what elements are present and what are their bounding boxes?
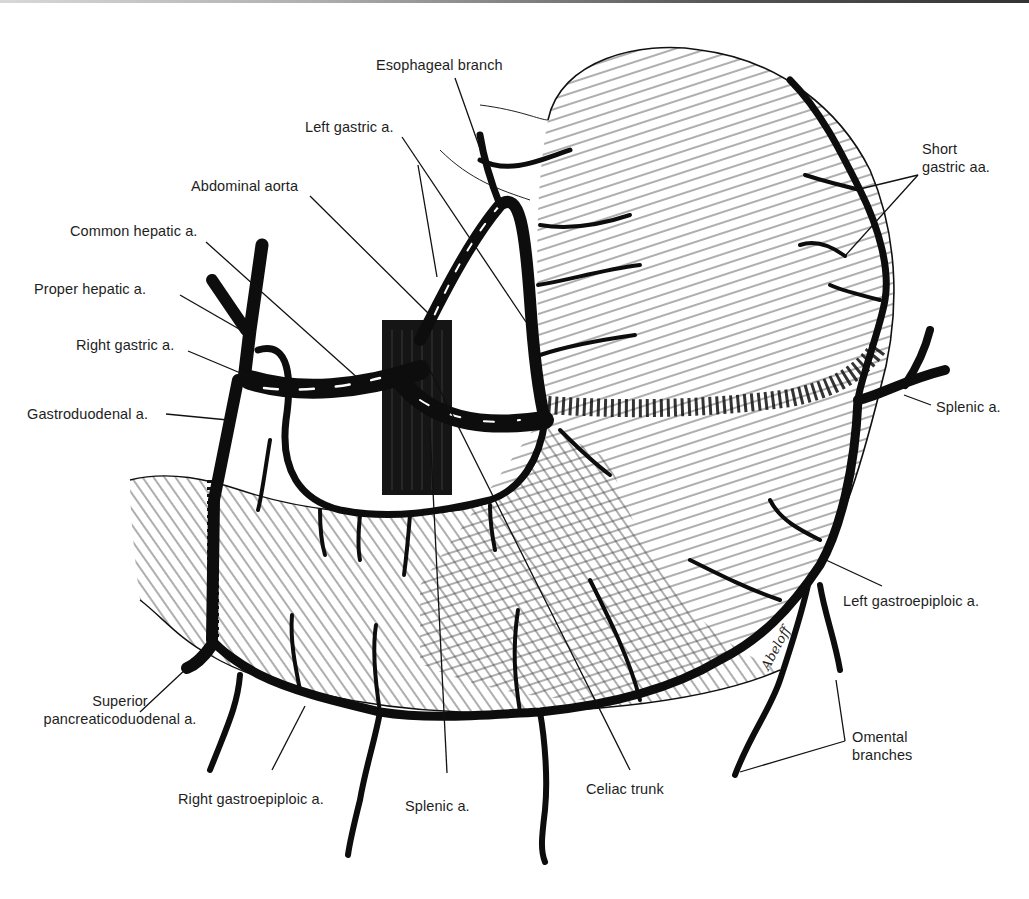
label-proper-hepatic: Proper hepatic a. bbox=[34, 280, 146, 298]
label-omental-line1: Omental bbox=[852, 728, 912, 746]
label-short-gastric: Short gastric aa. bbox=[922, 140, 990, 176]
label-omental-line2: branches bbox=[852, 746, 912, 764]
stomach-illustration bbox=[0, 0, 1029, 899]
label-left-gastric: Left gastric a. bbox=[305, 118, 394, 136]
splenic-right-leader bbox=[904, 395, 931, 405]
label-gastroduodenal: Gastroduodenal a. bbox=[27, 405, 148, 423]
left-gastric-leader-b bbox=[418, 165, 437, 277]
label-right-gastric: Right gastric a. bbox=[76, 336, 174, 354]
label-common-hepatic: Common hepatic a. bbox=[70, 222, 197, 240]
label-short-gastric-line2: gastric aa. bbox=[922, 158, 990, 176]
label-splenic-bottom: Splenic a. bbox=[405, 797, 470, 815]
label-celiac-trunk: Celiac trunk bbox=[586, 780, 664, 798]
label-superior-pd-line1: Superior bbox=[30, 692, 210, 710]
label-esophageal-branch: Esophageal branch bbox=[376, 56, 503, 74]
label-left-gastroepiploic: Left gastroepiploic a. bbox=[843, 592, 979, 610]
label-superior-pancreaticoduodenal: Superior pancreaticoduodenal a. bbox=[30, 692, 210, 728]
gastroduodenal-leader bbox=[166, 414, 228, 420]
omental-leader-b bbox=[836, 680, 845, 741]
label-superior-pd-line2: pancreaticoduodenal a. bbox=[30, 710, 210, 728]
label-omental-branches: Omental branches bbox=[852, 728, 912, 764]
label-short-gastric-line1: Short bbox=[922, 140, 990, 158]
esophageal-branch-leader bbox=[455, 78, 484, 160]
label-abdominal-aorta: Abdominal aorta bbox=[191, 177, 298, 195]
right-gastroepiploic-leader bbox=[272, 706, 305, 770]
omental-leader-a bbox=[740, 741, 845, 772]
abdominal-aorta-leader bbox=[310, 196, 428, 313]
label-splenic-right: Splenic a. bbox=[936, 398, 1001, 416]
left-gastroepiploic-leader bbox=[826, 560, 882, 586]
label-right-gastroepiploic: Right gastroepiploic a. bbox=[178, 790, 324, 808]
